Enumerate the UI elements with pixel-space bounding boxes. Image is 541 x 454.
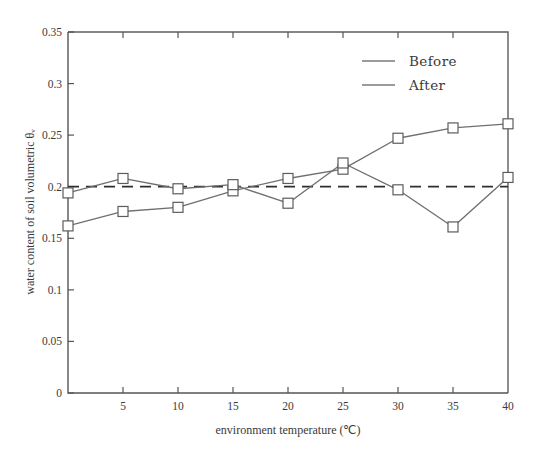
chart-figure: 0 0.05 0.1 0.15 0.2 0.25 0.3 0.35 — [0, 0, 541, 454]
data-point-marker — [63, 188, 73, 198]
series-markers-after — [63, 158, 513, 232]
data-point-marker — [393, 185, 403, 195]
data-point-marker — [118, 206, 128, 216]
y-tick-label: 0 — [56, 387, 62, 399]
y-tick-label: 0.15 — [42, 232, 62, 244]
chart-legend: Before After — [362, 53, 457, 93]
y-tick-label: 0.1 — [48, 284, 63, 296]
x-tick-label: 20 — [282, 400, 294, 412]
data-point-marker — [283, 173, 293, 183]
data-point-marker — [173, 184, 183, 194]
y-tick-label: 0.25 — [42, 129, 62, 141]
data-point-marker — [118, 173, 128, 183]
x-tick-labels: 5 10 15 20 25 30 35 40 — [120, 400, 514, 412]
x-tick-label: 5 — [120, 400, 126, 412]
data-point-marker — [503, 172, 513, 182]
x-tick-label: 10 — [172, 400, 184, 412]
y-tick-label: 0.3 — [48, 78, 63, 90]
x-tick-label: 40 — [502, 400, 514, 412]
legend-label-before: Before — [409, 53, 457, 69]
x-tick-label: 25 — [337, 400, 349, 412]
y-tick-label: 0.05 — [42, 335, 62, 347]
y-axis-title: water content of soil volumetric θᵥ — [23, 129, 37, 295]
data-point-marker — [503, 119, 513, 129]
y-tick-marks — [68, 32, 74, 393]
series-group — [63, 119, 513, 232]
x-tick-label: 30 — [392, 400, 404, 412]
x-tick-label: 35 — [447, 400, 459, 412]
x-tick-label: 15 — [227, 400, 239, 412]
y-tick-label: 0.2 — [48, 181, 63, 193]
y-tick-labels: 0 0.05 0.1 0.15 0.2 0.25 0.3 0.35 — [42, 26, 62, 399]
data-point-marker — [63, 221, 73, 231]
x-axis-title: environment temperature (℃) — [216, 423, 361, 437]
data-point-marker — [448, 222, 458, 232]
data-point-marker — [338, 158, 348, 168]
data-point-marker — [173, 202, 183, 212]
y-tick-label: 0.35 — [42, 26, 62, 38]
line-chart: 0 0.05 0.1 0.15 0.2 0.25 0.3 0.35 — [0, 0, 541, 454]
data-point-marker — [283, 198, 293, 208]
series-line-after — [68, 163, 508, 227]
series-markers-before — [63, 119, 513, 231]
data-point-marker — [228, 180, 238, 190]
data-point-marker — [393, 133, 403, 143]
legend-label-after: After — [408, 77, 446, 93]
data-point-marker — [448, 123, 458, 133]
